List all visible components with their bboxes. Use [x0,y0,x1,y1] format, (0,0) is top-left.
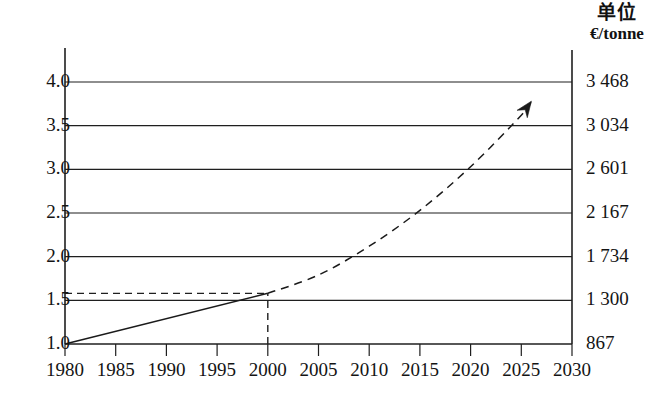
x-axis-tick-label: 2030 [553,360,591,379]
y-axis-left-tick-label: 2.0 [46,246,70,265]
y-axis-left-tick-label: 1.0 [46,333,70,352]
x-axis-tick-label: 2000 [249,360,287,379]
x-axis-tick-label: 1995 [198,360,236,379]
series-line-projection [268,101,532,293]
y-axis-right-tick-label: 2 601 [586,158,629,177]
series-line-historical [65,293,268,344]
x-axis-tick-label: 2015 [401,360,439,379]
chart-plot-area [0,0,656,410]
x-axis-tick-label: 2010 [350,360,388,379]
y-axis-left-tick-label: 3.0 [46,158,70,177]
y-axis-right-tick-label: 1 300 [586,289,629,308]
y-axis-left-tick-label: 4.0 [46,71,70,90]
y-axis-left-tick-label: 1.5 [46,289,70,308]
x-axis-tick-label: 2005 [300,360,338,379]
x-axis-tick-label: 2020 [452,360,490,379]
y-axis-right-tick-label: 3 034 [586,115,629,134]
data-series-group [65,101,531,344]
y-axis-right-tick-label: 1 734 [586,246,629,265]
axes-group [65,48,572,344]
x-axis-tick-label: 1985 [97,360,135,379]
gridlines-group [65,82,572,300]
x-tick-marks-group [65,344,572,356]
y-axis-left-tick-label: 2.5 [46,202,70,221]
y-axis-right-tick-label: 3 468 [586,71,629,90]
x-axis-tick-label: 1980 [46,360,84,379]
x-axis-tick-label: 1990 [147,360,185,379]
x-axis-tick-label: 2025 [502,360,540,379]
y-axis-right-tick-label: 867 [586,333,615,352]
chart-figure: 单位 €/tonne 1.01.52.02.53.03.54.0 8671 30… [0,0,656,410]
y-axis-left-tick-label: 3.5 [46,115,70,134]
y-axis-right-tick-label: 2 167 [586,202,629,221]
arrow-head-icon [517,101,531,118]
